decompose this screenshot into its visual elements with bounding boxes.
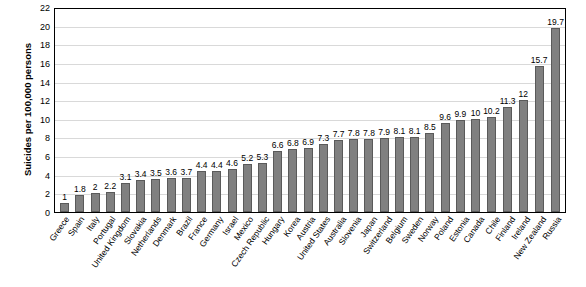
bar[interactable] — [349, 139, 358, 212]
bar[interactable] — [380, 138, 389, 212]
bar[interactable] — [551, 28, 560, 212]
y-axis-tick-labels: 0246810121416182022 — [0, 8, 50, 213]
bar[interactable] — [121, 183, 130, 212]
bar-value-label: 19.7 — [547, 17, 564, 27]
bar-value-label: 3.4 — [135, 169, 147, 179]
bar-slot: 8.1 — [392, 8, 407, 212]
y-tick-label: 10 — [4, 115, 50, 125]
bar-slot: 6.6 — [270, 8, 285, 212]
bar-value-label: 2.2 — [104, 181, 116, 191]
bar-slot: 3.1 — [118, 8, 133, 212]
x-axis-category-labels: GreeceSpainItalyPortugalUnited KingdomSl… — [54, 215, 566, 285]
bar-value-label: 7.8 — [363, 128, 375, 138]
bar-value-label: 9.9 — [454, 109, 466, 119]
bar-value-label: 7.7 — [333, 129, 345, 139]
bar-value-label: 4.6 — [226, 158, 238, 168]
bar-value-label: 1.8 — [74, 184, 86, 194]
bar[interactable] — [503, 107, 512, 212]
bar-slot: 4.4 — [194, 8, 209, 212]
bar-value-label: 7.3 — [317, 133, 329, 143]
bar-value-label: 5.2 — [241, 153, 253, 163]
bar-slot: 7.7 — [331, 8, 346, 212]
bar[interactable] — [395, 137, 404, 212]
bar[interactable] — [91, 193, 100, 212]
bar-value-label: 2 — [93, 182, 98, 192]
bar[interactable] — [535, 66, 544, 212]
bar[interactable] — [167, 178, 176, 212]
plot-area: 11.822.23.13.43.53.63.74.44.44.65.25.36.… — [54, 8, 566, 213]
bar-value-label: 4.4 — [211, 160, 223, 170]
bar-slot: 3.6 — [164, 8, 179, 212]
bar[interactable] — [258, 163, 267, 212]
bar-chart: Suicides per 100,000 persons 02468101214… — [0, 0, 586, 287]
bar-slot: 12 — [516, 8, 531, 212]
bar[interactable] — [441, 123, 450, 212]
bar-slot: 9.6 — [437, 8, 452, 212]
y-tick-label: 6 — [4, 152, 50, 162]
bar-slot: 7.3 — [316, 8, 331, 212]
bar-value-label: 6.8 — [287, 138, 299, 148]
bar-slot: 1 — [57, 8, 72, 212]
bar-slot: 7.9 — [377, 8, 392, 212]
bar[interactable] — [410, 137, 419, 212]
bar-slot: 2.2 — [103, 8, 118, 212]
x-tick-slot: Canada — [472, 215, 487, 285]
bar-slot: 3.5 — [148, 8, 163, 212]
y-tick-label: 4 — [4, 171, 50, 181]
bar[interactable] — [288, 149, 297, 212]
x-tick-slot: Belgium — [395, 215, 410, 285]
bar[interactable] — [60, 203, 69, 212]
x-tick-slot: United States — [318, 215, 333, 285]
bar[interactable] — [75, 195, 84, 212]
bar-value-label: 10 — [471, 108, 480, 118]
bar-value-label: 8.5 — [424, 122, 436, 132]
bar[interactable] — [487, 117, 496, 212]
bar-value-label: 1 — [62, 192, 67, 202]
y-tick-label: 18 — [4, 40, 50, 50]
bar[interactable] — [425, 133, 434, 212]
bar-slot: 3.4 — [133, 8, 148, 212]
y-tick-label: 16 — [4, 59, 50, 69]
x-tick-slot: France — [195, 215, 210, 285]
bar[interactable] — [364, 139, 373, 212]
bar-slot: 7.8 — [361, 8, 376, 212]
bar-slot: 7.8 — [346, 8, 361, 212]
bar[interactable] — [319, 144, 328, 212]
bar-value-label: 4.4 — [196, 160, 208, 170]
bar[interactable] — [212, 171, 221, 212]
bar-slot: 1.8 — [72, 8, 87, 212]
bar-slot: 2 — [87, 8, 102, 212]
bar-slot: 5.2 — [240, 8, 255, 212]
bar[interactable] — [273, 151, 282, 213]
bar[interactable] — [197, 171, 206, 212]
y-tick-label: 0 — [4, 208, 50, 218]
bar[interactable] — [471, 119, 480, 212]
y-tick-label: 22 — [4, 3, 50, 13]
bar[interactable] — [182, 178, 191, 212]
y-tick-label: 8 — [4, 133, 50, 143]
bar-value-label: 15.7 — [531, 55, 548, 65]
bar-slot: 4.6 — [224, 8, 239, 212]
bar-value-label: 3.5 — [150, 168, 162, 178]
bar-slot: 9.9 — [453, 8, 468, 212]
bar-value-label: 5.3 — [257, 152, 269, 162]
bar[interactable] — [456, 120, 465, 212]
bar-slot: 4.4 — [209, 8, 224, 212]
bar-value-label: 8.1 — [394, 126, 406, 136]
bar[interactable] — [136, 180, 145, 212]
bar[interactable] — [151, 179, 160, 212]
bar[interactable] — [519, 100, 528, 212]
bar-value-label: 10.2 — [483, 106, 500, 116]
bar-value-label: 6.9 — [302, 137, 314, 147]
bar-slot: 3.7 — [179, 8, 194, 212]
bar[interactable] — [228, 169, 237, 212]
bar[interactable] — [304, 148, 313, 212]
bar[interactable] — [243, 164, 252, 212]
bar-series: 11.822.23.13.43.53.63.74.44.44.65.25.36.… — [55, 8, 566, 212]
bar[interactable] — [106, 192, 115, 213]
bar-value-label: 11.3 — [500, 96, 516, 106]
bar-slot: 15.7 — [531, 8, 548, 212]
bar-value-label: 3.6 — [165, 167, 177, 177]
y-tick-label: 14 — [4, 78, 50, 88]
bar[interactable] — [334, 140, 343, 212]
